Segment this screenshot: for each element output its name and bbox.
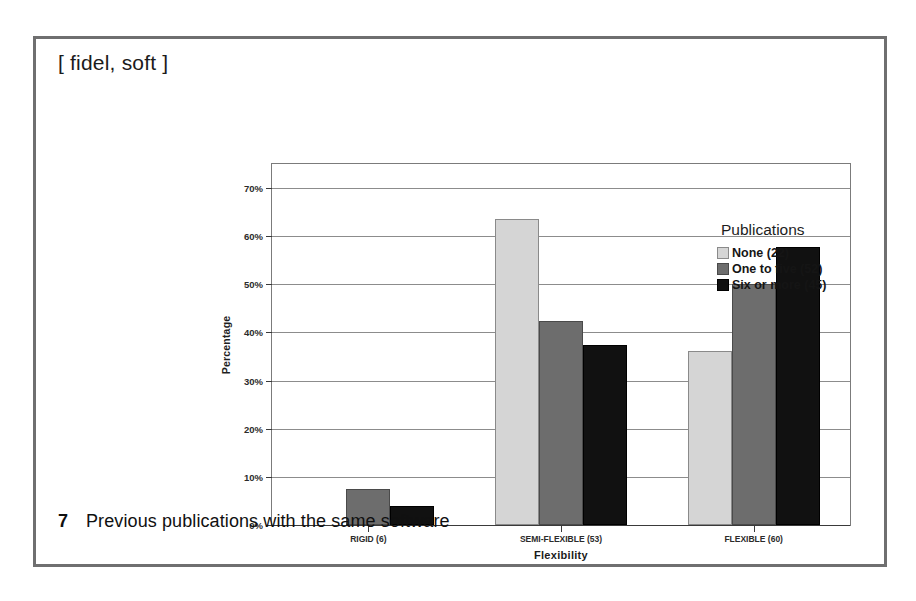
caption-text: Previous publications with the same soft… <box>86 511 450 532</box>
bar-semi-flexible-53--series-1 <box>539 321 583 525</box>
figure-header-text: [ fidel, soft ] <box>58 51 168 75</box>
legend-swatch-icon <box>717 263 729 275</box>
y-tick-label: 60% <box>244 231 263 242</box>
legend-item: One to five (52) <box>717 262 877 276</box>
legend-rows: None (22)One to five (52)Six or more (45… <box>717 246 877 292</box>
y-axis-title: Percentage <box>218 163 234 526</box>
y-tick-label: 30% <box>244 375 263 386</box>
x-axis-title-label: Flexibility <box>272 549 850 561</box>
y-tick-label: 70% <box>244 183 263 194</box>
x-tick-label: RIGID (6) <box>350 534 386 544</box>
legend-item-label: Six or more (45) <box>732 278 826 292</box>
legend-item-label: None (22) <box>732 246 789 260</box>
figure-caption: 7 Previous publications with the same so… <box>58 511 450 532</box>
legend-swatch-icon <box>717 247 729 259</box>
legend-title: Publications <box>721 221 877 239</box>
y-tick-label: 10% <box>244 471 263 482</box>
y-tick-label: 40% <box>244 327 263 338</box>
legend-item-label: One to five (52) <box>732 262 822 276</box>
x-tick-label: SEMI-FLEXIBLE (53) <box>520 534 602 544</box>
bar-semi-flexible-53--series-2 <box>583 345 627 526</box>
bar-flexible-60--series-1 <box>732 284 776 525</box>
chart-legend: Publications None (22)One to five (52)Si… <box>717 221 877 294</box>
legend-item: None (22) <box>717 246 877 260</box>
chart-panel: Percentage 0%10%20%30%40%50%60%70% RIGID… <box>204 99 716 467</box>
bar-flexible-60--series-0 <box>688 351 732 525</box>
figure-frame: [ fidel, soft ] Percentage 0%10%20%30%40… <box>33 36 887 567</box>
y-axis-title-label: Percentage <box>220 315 232 374</box>
legend-item: Six or more (45) <box>717 278 877 292</box>
x-tick-mark <box>754 525 755 532</box>
legend-swatch-icon <box>717 279 729 291</box>
bar-semi-flexible-53--series-0 <box>495 219 539 525</box>
x-tick-mark <box>561 525 562 532</box>
y-tick-label: 20% <box>244 423 263 434</box>
bars-layer <box>272 164 850 525</box>
x-tick-label: FLEXIBLE (60) <box>724 534 783 544</box>
caption-number: 7 <box>58 511 68 532</box>
plot-area: 0%10%20%30%40%50%60%70% RIGID (6)SEMI-FL… <box>271 163 851 526</box>
y-tick-label: 50% <box>244 279 263 290</box>
